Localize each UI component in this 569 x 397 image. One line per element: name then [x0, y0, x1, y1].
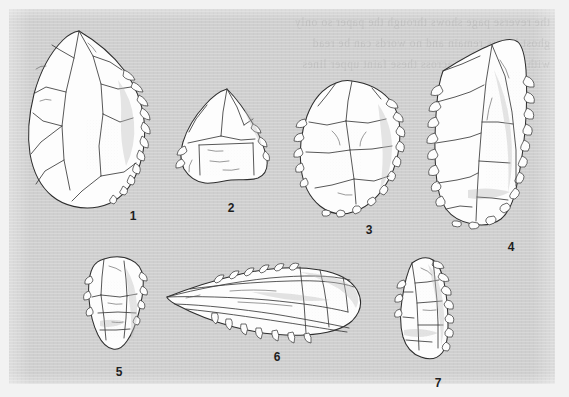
artefact-drawings: .out { fill:#fdfdfd; stroke:#2e2e2e; str… [0, 0, 569, 397]
artefact-7-drawing [395, 258, 454, 359]
artefact-label-2: 2 [222, 202, 240, 214]
artefact-1-drawing [29, 31, 151, 208]
artefact-5-drawing [84, 257, 148, 349]
artefact-6-drawing [167, 263, 360, 343]
artefact-label-7: 7 [429, 377, 447, 389]
artefact-4-drawing [427, 39, 534, 229]
artefact-label-1: 1 [124, 210, 142, 222]
artefact-label-3: 3 [360, 224, 378, 236]
artefact-label-4: 4 [502, 241, 520, 253]
artefact-3-drawing [294, 81, 405, 217]
artefact-label-6: 6 [268, 351, 286, 363]
artefact-2-drawing [176, 89, 270, 183]
artefact-label-5: 5 [110, 366, 128, 378]
lithic-artefact-plate: the reverse page shows through the paper… [0, 0, 569, 397]
